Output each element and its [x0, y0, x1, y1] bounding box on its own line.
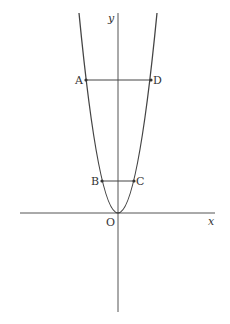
diagram-canvas: y x O A D B C: [0, 0, 230, 324]
point-c-label: C: [136, 175, 144, 188]
origin-label: O: [106, 216, 115, 229]
x-axis-label: x: [208, 215, 215, 228]
point-a: [84, 78, 87, 81]
point-b: [100, 179, 103, 182]
y-axis-label: y: [107, 12, 115, 25]
point-b-label: B: [91, 175, 99, 188]
point-d-label: D: [153, 74, 162, 87]
point-a-label: A: [74, 74, 84, 87]
